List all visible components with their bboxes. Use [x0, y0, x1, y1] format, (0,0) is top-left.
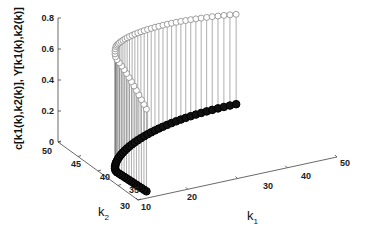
y-marker [209, 14, 215, 20]
z-axis-label: c[k1(k),k2(k)], Y[k1(k),k2(k)] [12, 7, 24, 150]
z-tick-1: 0.2 [41, 106, 54, 116]
k1-tick-20: 20 [187, 192, 197, 202]
c-series-markers [111, 100, 240, 195]
tick [335, 155, 337, 157]
y-marker [204, 14, 210, 20]
tick [98, 170, 101, 171]
c-marker [232, 100, 240, 108]
k1-tick-50: 50 [340, 158, 350, 168]
k2-tick-35: 35 [129, 185, 139, 195]
k1-tick-30: 30 [263, 181, 273, 191]
k1-tick-40: 40 [301, 171, 311, 181]
y-series-markers [112, 11, 239, 112]
tick [78, 156, 81, 157]
tick [285, 166, 287, 168]
stem-plot-3d: 0 0.2 0.4 0.6 0.8 50 45 40 35 30 10 20 3… [0, 0, 368, 237]
tick [186, 187, 188, 189]
k1-tick-10: 10 [141, 202, 151, 212]
tick [118, 185, 121, 186]
z-tick-2: 0.4 [41, 75, 54, 85]
k2-tick-30: 30 [120, 201, 130, 211]
y-marker [227, 12, 233, 18]
k2-tick-40: 40 [100, 172, 110, 182]
k2-tick-50: 50 [42, 146, 52, 156]
k2-axis-label: k2 [98, 204, 110, 222]
y-marker [233, 11, 239, 17]
y-marker [198, 15, 204, 21]
k2-tick-45: 45 [71, 159, 81, 169]
z-tick-3: 0.6 [41, 44, 54, 54]
tick [236, 177, 238, 179]
k1-axis-label: k1 [247, 208, 259, 226]
z-tick-4: 0.8 [41, 13, 54, 23]
y-marker [221, 12, 227, 18]
y-marker [215, 13, 221, 19]
